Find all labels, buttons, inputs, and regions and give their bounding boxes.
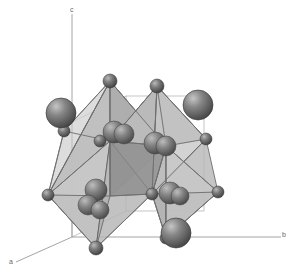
cation-upper-right — [183, 90, 213, 120]
anion-top-left-apex — [103, 74, 117, 88]
anion-left-equator — [42, 189, 54, 201]
axis-label-a: a — [9, 258, 13, 265]
crystal-structure-figure: c b a — [0, 0, 295, 280]
anion-right-lower — [212, 186, 224, 198]
axis-a-line — [16, 237, 72, 262]
anion-center-right — [146, 188, 158, 200]
axis-label-b: b — [282, 231, 286, 238]
interior-cation-rlow-b — [171, 187, 189, 205]
anion-center-left — [94, 135, 106, 147]
interior-cation-low-c — [91, 201, 109, 219]
axis-label-c: c — [70, 6, 74, 13]
anion-right-equator — [200, 133, 212, 145]
anion-top-right-apex — [150, 79, 164, 93]
anion-bottom-apex — [89, 241, 103, 255]
interior-cation-mid-b — [156, 136, 176, 156]
structure-canvas — [0, 0, 295, 280]
interior-cation-upper-b — [114, 124, 134, 144]
cation-bottom — [161, 218, 191, 248]
cation-upper-left — [46, 98, 76, 128]
